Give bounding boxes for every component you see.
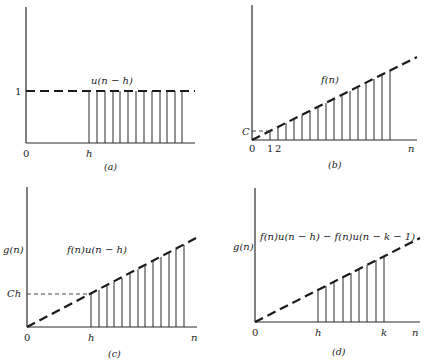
y-axis-label: g(n) <box>3 244 24 255</box>
y-axis-label: g(n) <box>233 241 254 252</box>
x-mark-k: k <box>381 327 387 338</box>
panel-b: f(n) C 0 1 2 n (b) <box>242 5 417 170</box>
x-axis-label: n <box>408 143 414 154</box>
x-mark-h: h <box>88 332 94 343</box>
origin-label: 0 <box>23 148 29 159</box>
y-tick-ch: Ch <box>7 288 21 299</box>
curve-label: f(n)u(n − h) − f(n)u(n − k − 1) <box>259 231 415 242</box>
origin-label: 0 <box>24 332 30 343</box>
y-tick-1: 1 <box>15 86 21 97</box>
x-mark-1: 1 <box>267 143 273 154</box>
caption: (a) <box>104 161 117 172</box>
origin-label: 0 <box>252 327 258 338</box>
x-axis-label: n <box>412 327 418 338</box>
origin-label: 0 <box>249 143 255 154</box>
ramp-line <box>255 238 420 322</box>
x-mark-h: h <box>86 148 92 159</box>
figure-canvas: u(n − h) 1 0 h (a) f(n) <box>0 0 430 364</box>
curve-label: u(n − h) <box>91 75 133 86</box>
panel-d: f(n)u(n − h) − f(n)u(n − k − 1) g(n) 0 h… <box>233 188 420 357</box>
caption: (b) <box>328 159 342 170</box>
panel-a: u(n − h) 1 0 h (a) <box>15 7 195 172</box>
caption: (c) <box>108 348 121 359</box>
x-mark-2: 2 <box>275 143 281 154</box>
x-mark-h: h <box>315 327 321 338</box>
panel-c: f(n)u(n − h) g(n) Ch 0 h n (c) <box>3 187 200 359</box>
caption: (d) <box>332 346 346 357</box>
curve-label: f(n)u(n − h) <box>66 244 127 255</box>
y-tick-c: C <box>242 126 250 137</box>
stems <box>89 91 182 143</box>
curve-label: f(n) <box>320 74 339 85</box>
stems <box>318 256 384 322</box>
x-axis-label: n <box>191 332 197 343</box>
